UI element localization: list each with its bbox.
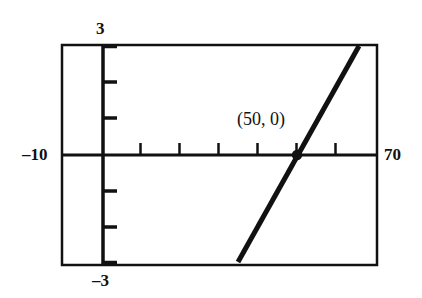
x-max-label: 70	[384, 146, 401, 163]
graph-canvas	[0, 0, 422, 298]
y-max-label: 3	[96, 20, 105, 37]
y-min-label: –3	[92, 272, 109, 289]
graph-figure: 3 –3 –10 70 (50, 0)	[0, 0, 422, 298]
x-min-label: –10	[22, 146, 48, 163]
point-coordinate-label: (50, 0)	[237, 110, 285, 128]
x-intercept-marker	[292, 150, 302, 160]
